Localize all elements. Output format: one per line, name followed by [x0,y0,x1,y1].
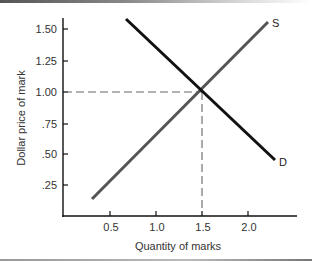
svg-text:1.0: 1.0 [149,221,164,233]
svg-text:1.5: 1.5 [195,221,210,233]
svg-text:1.50: 1.50 [36,23,57,35]
svg-text:0.5: 0.5 [103,221,118,233]
x-axis-label: Quantity of marks [135,240,222,252]
demand-curve [126,19,275,160]
svg-text:1.00: 1.00 [36,86,57,98]
x-tick-labels: 0.5 1.0 1.5 2.0 [103,221,256,233]
svg-text:.50: .50 [42,148,57,160]
supply-curve [92,22,268,199]
svg-text:1.25: 1.25 [36,55,57,67]
supply-demand-chart: 1.50 1.25 1.00 .75 .50 .25 0.5 1.0 1.5 2… [0,0,312,263]
svg-text:.25: .25 [42,179,57,191]
x-ticks [110,211,248,216]
svg-text:.75: .75 [42,118,57,130]
y-ticks [63,29,68,185]
y-axis-label: Dollar price of mark [15,70,27,166]
svg-text:2.0: 2.0 [241,221,256,233]
demand-curve-label: D [279,156,287,168]
bottom-border-rule [0,259,312,261]
y-tick-labels: 1.50 1.25 1.00 .75 .50 .25 [36,23,57,191]
supply-curve-label: S [272,17,279,29]
